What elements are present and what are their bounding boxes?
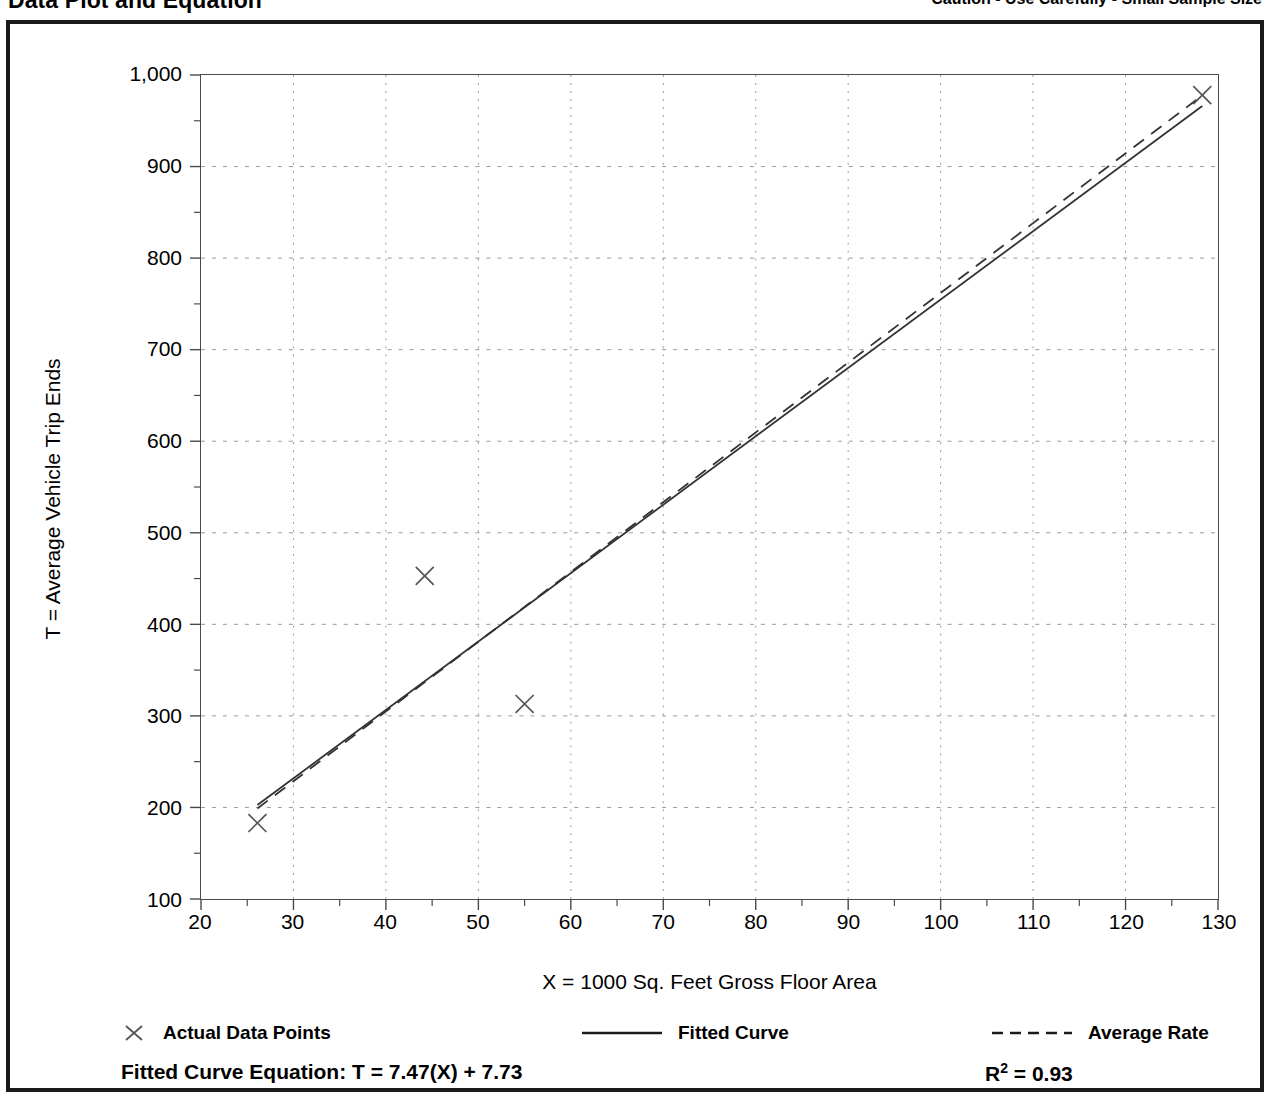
y-axis-title: T = Average Vehicle Trip Ends	[41, 289, 65, 709]
y-tick-label: 900	[147, 154, 182, 178]
legend-item-fitted-curve: Fitted Curve	[580, 1018, 789, 1048]
r-squared-number: = 0.93	[1008, 1062, 1073, 1085]
dashed-line-swatch-icon	[990, 1021, 1074, 1045]
legend-label-average: Average Rate	[1088, 1022, 1209, 1044]
y-tick-label: 200	[147, 796, 182, 820]
x-tick-label: 60	[559, 910, 582, 934]
plot-area	[200, 74, 1219, 900]
x-tick-label: 130	[1201, 910, 1236, 934]
chart-figure: T = Average Vehicle Trip Ends 1002003004…	[10, 24, 1260, 1088]
x-tick-label: 70	[651, 910, 674, 934]
x-tick-label: 110	[1017, 910, 1050, 934]
y-axis-tick-labels: 1002003004005006007008009001,000	[110, 74, 182, 900]
y-tick-label: 500	[147, 521, 182, 545]
x-tick-label: 50	[466, 910, 489, 934]
r-squared-prefix: R	[985, 1062, 1000, 1085]
y-tick-label: 100	[147, 888, 182, 912]
chart-legend: Actual Data Points Fitted Curve Average …	[105, 1018, 1215, 1048]
r-squared-exponent: 2	[1000, 1060, 1008, 1076]
r-squared-value: R2 = 0.93	[985, 1060, 1073, 1086]
x-tick-label: 100	[924, 910, 959, 934]
x-tick-label: 30	[281, 910, 304, 934]
fitted-curve-equation: Fitted Curve Equation: T = 7.47(X) + 7.7…	[121, 1060, 522, 1084]
x-axis-title: X = 1000 Sq. Feet Gross Floor Area	[200, 970, 1219, 994]
y-tick-label: 300	[147, 704, 182, 728]
y-tick-label: 800	[147, 246, 182, 270]
y-tick-label: 400	[147, 613, 182, 637]
legend-label-fitted: Fitted Curve	[678, 1022, 789, 1044]
y-tick-label: 1,000	[129, 62, 182, 86]
x-tick-label: 80	[744, 910, 767, 934]
legend-item-actual-data-points: Actual Data Points	[121, 1018, 331, 1048]
x-tick-label: 90	[837, 910, 860, 934]
caution-note: Caution - Use Carefully - Small Sample S…	[931, 0, 1262, 8]
y-tick-label: 700	[147, 337, 182, 361]
x-marker-icon	[121, 1021, 147, 1045]
x-tick-label: 120	[1109, 910, 1144, 934]
x-axis-tick-labels: 2030405060708090100110120130	[200, 910, 1219, 938]
equation-row: Fitted Curve Equation: T = 7.47(X) + 7.7…	[105, 1060, 1215, 1094]
data-series-layer	[201, 75, 1218, 899]
solid-line-swatch-icon	[580, 1021, 664, 1045]
y-tick-label: 600	[147, 429, 182, 453]
legend-item-average-rate: Average Rate	[990, 1018, 1209, 1048]
page-title: Data Plot and Equation	[8, 0, 262, 14]
header-strip: Data Plot and Equation Caution - Use Car…	[0, 0, 1276, 16]
x-tick-label: 20	[188, 910, 211, 934]
chart-frame: T = Average Vehicle Trip Ends 1002003004…	[6, 20, 1264, 1092]
x-tick-label: 40	[374, 910, 397, 934]
legend-label-actual: Actual Data Points	[163, 1022, 331, 1044]
